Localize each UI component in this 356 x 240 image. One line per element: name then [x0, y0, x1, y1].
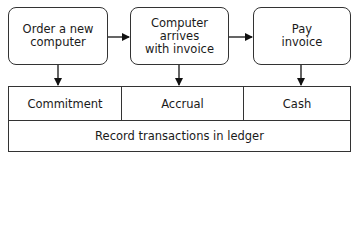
- accounting-table: Commitment Accrual Cash Record transacti…: [8, 86, 351, 152]
- cell-accrual: Accrual: [121, 87, 243, 120]
- recognition-row: Commitment Accrual Cash: [9, 87, 350, 121]
- cell-commitment: Commitment: [9, 87, 121, 120]
- ledger-row: Record transactions in ledger: [9, 120, 350, 151]
- cell-cash: Cash: [243, 87, 350, 120]
